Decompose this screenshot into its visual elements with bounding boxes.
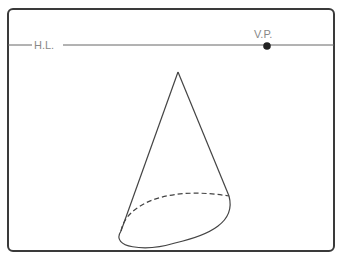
cone <box>119 72 230 248</box>
perspective-diagram: H.L. V.P. <box>0 0 341 257</box>
cone-base-front <box>119 196 230 248</box>
cone-base-back <box>121 193 229 231</box>
vanishing-point <box>263 42 271 50</box>
horizon-label: H.L. <box>34 39 54 51</box>
vanishing-point-label: V.P. <box>254 28 272 40</box>
